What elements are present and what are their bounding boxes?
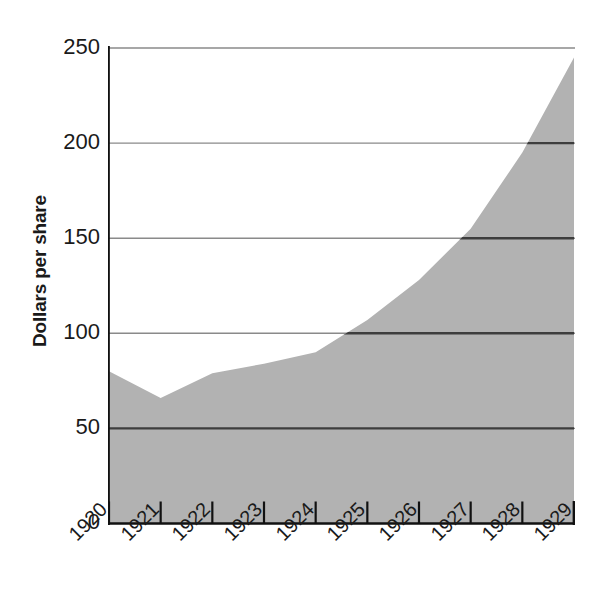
area-chart: Dollars per share 250 200 150 100 50 0 [0, 0, 616, 599]
x-tick-label-1924: 1924 [272, 498, 318, 544]
x-tick-label-1927: 1927 [427, 498, 473, 544]
x-tick-label-1928: 1928 [478, 498, 524, 544]
x-tick-label-1926: 1926 [375, 498, 421, 544]
x-tick-label-1923: 1923 [220, 498, 266, 544]
x-tick-label-1922: 1922 [168, 498, 214, 544]
x-tick-label-1920: 1920 [65, 498, 111, 544]
x-axis-tick-labels: 1920 1921 1922 1923 1924 1925 1926 1927 … [0, 0, 616, 599]
x-tick-label-1921: 1921 [117, 498, 163, 544]
x-tick-label-1929: 1929 [530, 498, 576, 544]
x-tick-label-1925: 1925 [323, 498, 369, 544]
